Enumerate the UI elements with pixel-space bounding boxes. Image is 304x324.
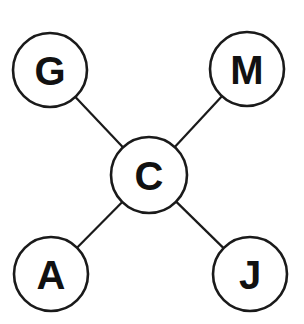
node-c: C xyxy=(111,137,187,213)
star-graph-diagram: GMCAJ xyxy=(0,0,304,324)
edge-c-a xyxy=(77,202,122,248)
node-label: C xyxy=(135,154,164,198)
edge-c-j xyxy=(176,202,223,248)
node-label: A xyxy=(37,253,66,297)
edge-c-g xyxy=(75,97,123,147)
node-m: M xyxy=(210,32,284,106)
node-label: G xyxy=(34,49,65,93)
node-label: J xyxy=(239,253,261,297)
node-a: A xyxy=(14,237,88,311)
edge-c-m xyxy=(175,96,222,147)
nodes-group: GMCAJ xyxy=(13,32,287,311)
node-label: M xyxy=(230,48,263,92)
node-g: G xyxy=(13,33,87,107)
node-j: J xyxy=(213,237,287,311)
